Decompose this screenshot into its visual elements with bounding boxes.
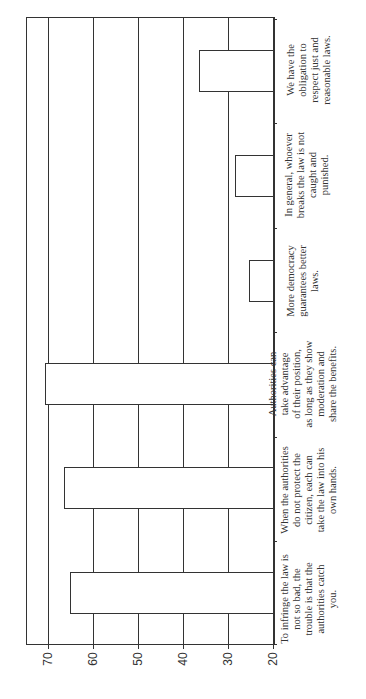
tick-label-70: 70 [41, 644, 55, 674]
bar-more-democracy [249, 260, 274, 302]
tick-label-50: 50 [131, 644, 145, 674]
bar-take-law-into-own-hands [64, 467, 274, 509]
category-tick [273, 228, 277, 229]
bar-authorities-advantage [45, 363, 274, 405]
category-label-infringe-law: To infringe the law is not so bad, the t… [279, 547, 341, 651]
bar-respect-just-laws [199, 50, 274, 92]
gridline-70 [48, 17, 49, 644]
tick-label-40: 40 [176, 644, 190, 674]
tick-label-60: 60 [86, 644, 100, 674]
category-label-authorities-advantage: Authorities can take advantage of their … [267, 332, 341, 436]
gridline-50 [138, 17, 139, 644]
plot-frame [26, 17, 275, 645]
tick-label-20: 20 [266, 644, 280, 674]
category-label-take-law-into-own-hands: When the authorities do not protect the … [279, 438, 341, 542]
gridline-40 [183, 17, 184, 644]
category-tick [273, 123, 277, 124]
tick-label-30: 30 [221, 644, 235, 674]
category-tick [273, 541, 277, 542]
bar-chart: 70 60 50 40 30 20 To infringe the law is… [0, 0, 366, 699]
category-label-respect-just-laws: We have the obligation to respect just a… [285, 20, 335, 120]
category-label-not-caught-punished: In general, whoever breaks the law is no… [283, 123, 333, 227]
gridline-30 [228, 17, 229, 644]
value-axis-line [273, 17, 274, 645]
category-tick [273, 437, 277, 438]
bar-not-caught-punished [235, 155, 274, 197]
gridline-60 [93, 17, 94, 644]
category-label-more-democracy: More democracy guarantees better laws. [285, 233, 323, 329]
category-tick [273, 19, 277, 20]
bar-infringe-law [70, 572, 274, 614]
